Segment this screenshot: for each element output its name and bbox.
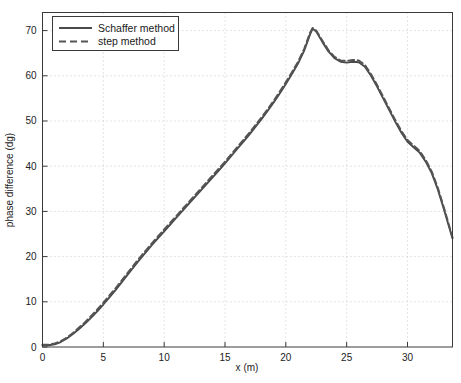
phase-difference-line-chart: 051015202530 010203040506070 x (m) phase… [0, 0, 461, 383]
figure-canvas: 051015202530 010203040506070 x (m) phase… [0, 0, 461, 383]
x-tick-label: 10 [159, 352, 171, 363]
legend-label-schaffer-method: Schaffer method [98, 22, 175, 34]
x-tick-label: 15 [219, 352, 231, 363]
y-tick-label: 70 [25, 25, 37, 36]
y-tick-label: 50 [25, 115, 37, 126]
y-axis-title: phase difference (dg) [4, 133, 15, 227]
y-tick-label: 40 [25, 161, 37, 172]
x-axis-title: x (m) [236, 362, 259, 373]
chart-background [0, 0, 461, 383]
y-tick-label: 0 [31, 342, 37, 353]
x-tick-label: 5 [101, 352, 107, 363]
x-tick-label: 0 [40, 352, 46, 363]
y-tick-label: 20 [25, 251, 37, 262]
x-tick-label: 20 [280, 352, 292, 363]
chart-legend[interactable]: Schaffer method step method [53, 17, 179, 51]
y-tick-label: 30 [25, 206, 37, 217]
x-tick-label: 25 [341, 352, 353, 363]
x-tick-label: 30 [402, 352, 414, 363]
y-tick-label: 10 [25, 296, 37, 307]
legend-label-step-method: step method [98, 35, 156, 47]
y-tick-label: 60 [25, 70, 37, 81]
